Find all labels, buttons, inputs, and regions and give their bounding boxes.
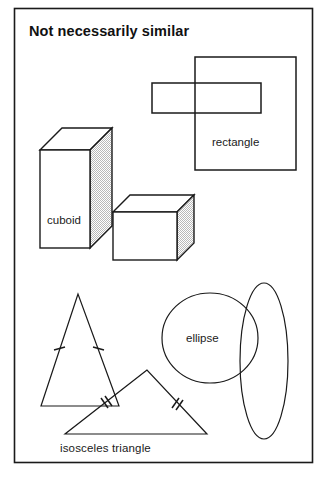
- isosceles-triangle-label: isosceles triangle: [60, 442, 151, 454]
- cuboid-tall: [40, 128, 112, 248]
- cuboid-tall-right-face: [90, 128, 112, 248]
- geometry-figure: Not necessarily similar rectangle: [0, 0, 328, 482]
- cuboid-label: cuboid: [47, 214, 81, 226]
- cuboid-tall-front-face: [40, 150, 90, 248]
- rectangle-label: rectangle: [212, 136, 259, 148]
- cuboid-small: [113, 195, 194, 260]
- figure-container: Not necessarily similar rectangle: [0, 0, 328, 482]
- ellipse-label: ellipse: [186, 332, 219, 344]
- cuboid-small-front-face: [113, 212, 177, 260]
- figure-title: Not necessarily similar: [29, 23, 190, 39]
